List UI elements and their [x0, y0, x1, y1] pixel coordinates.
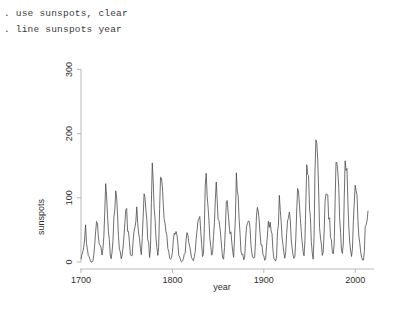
y-tick-label: 0	[64, 259, 74, 264]
x-axis-title: year	[213, 282, 231, 292]
y-tick-label: 200	[64, 126, 74, 141]
x-tick-label: 1700	[71, 275, 91, 285]
x-tick-label: 2000	[345, 275, 365, 285]
x-tick-label: 1800	[162, 275, 182, 285]
sunspots-series-line	[81, 140, 368, 262]
y-tick-label: 100	[64, 190, 74, 205]
chart-svg: 0100200300 1700180019002000 sunspots yea…	[0, 45, 399, 313]
y-tick-label: 300	[64, 62, 74, 77]
y-axis-ticks: 0100200300	[64, 62, 81, 265]
console-output: . use sunspots, clear . line sunspots ye…	[0, 0, 399, 38]
graph-region: 0100200300 1700180019002000 sunspots yea…	[0, 45, 399, 313]
command-line-1: . use sunspots, clear	[4, 6, 399, 22]
x-tick-label: 1900	[254, 275, 274, 285]
command-line-2: . line sunspots year	[4, 22, 399, 38]
sunspots-line-chart: 0100200300 1700180019002000 sunspots yea…	[0, 45, 399, 313]
y-axis-title: sunspots	[36, 198, 46, 235]
